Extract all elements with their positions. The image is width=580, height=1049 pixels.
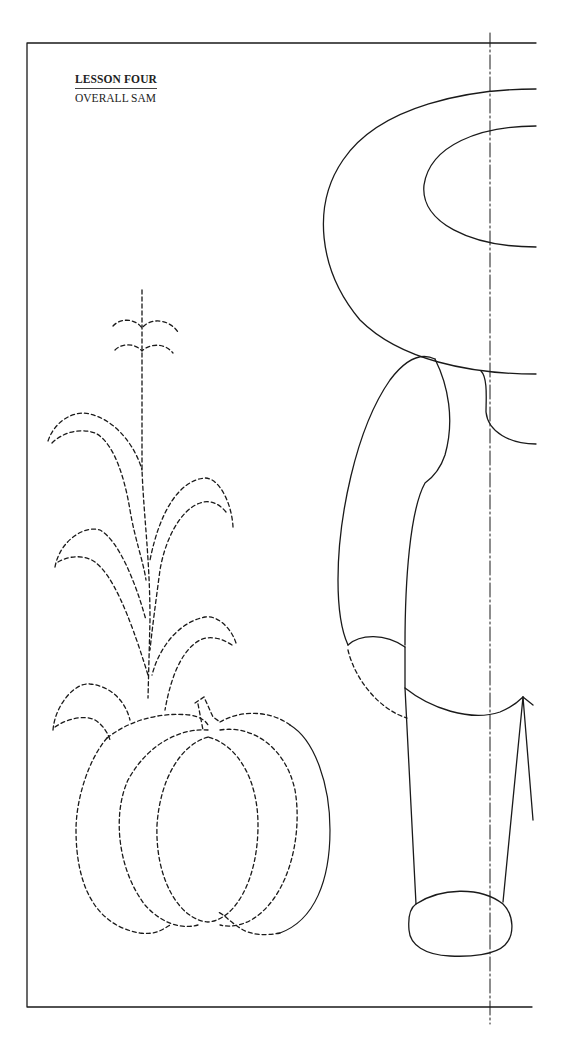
corn-leaf-upper-left-inner — [52, 431, 146, 580]
corn-leaf-right — [150, 478, 233, 560]
title-block: LESSON FOUR OVERALL SAM — [75, 72, 157, 105]
pattern-title: OVERALL SAM — [75, 91, 157, 105]
corn-leaf-lower-right-inner — [165, 638, 232, 710]
collar — [481, 371, 536, 444]
pumpkin-right-outline — [280, 725, 330, 933]
pumpkin-inner-left — [119, 730, 208, 927]
frame-border — [27, 43, 536, 1007]
pumpkin-bottom-right — [218, 912, 280, 935]
corn-tassel-2 — [115, 345, 173, 353]
overalls-leg-left — [405, 647, 416, 904]
arm-inner-edge — [405, 359, 450, 645]
corn-leaf-mid-left — [55, 529, 146, 620]
hat-brim-outer — [323, 89, 536, 374]
corn-leaf-right-inner — [150, 502, 226, 650]
corn-leaf-lower-left — [53, 684, 130, 730]
arm-sleeve — [338, 357, 435, 645]
overalls-leg-right — [503, 697, 523, 902]
corn-stalk — [142, 290, 150, 698]
lesson-label: LESSON FOUR — [75, 72, 157, 89]
pumpkin-left-lobe — [76, 738, 170, 933]
sleeve-cuff — [348, 637, 405, 647]
corn-tassel-1 — [113, 320, 178, 332]
pumpkin-top-left — [107, 714, 208, 738]
pattern-sheet — [0, 0, 580, 1049]
corn-leaf-lower-right — [152, 617, 236, 675]
corn-leaf-lower-left-inner — [55, 718, 110, 740]
pumpkin-inner-right — [220, 729, 297, 926]
overalls-waist — [405, 688, 533, 715]
corn-leaf-upper-left — [48, 413, 142, 470]
hand-dashed — [348, 650, 407, 718]
corn-leaf-mid-left-inner — [58, 557, 148, 675]
hat-crown-inner — [424, 126, 536, 247]
shoe — [409, 891, 512, 956]
pumpkin-center-oval — [157, 737, 258, 922]
pumpkin-right-lobe — [220, 713, 290, 725]
overalls-inseam — [523, 697, 533, 820]
